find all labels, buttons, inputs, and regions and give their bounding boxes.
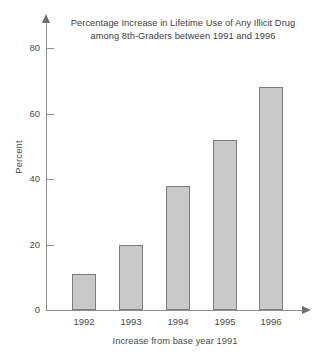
chart-title: Percentage Increase in Lifetime Use of A… <box>52 17 314 42</box>
y-tick-label-0: 0 <box>10 304 40 315</box>
y-tick-label-20: 20 <box>10 239 40 250</box>
x-tick-label-1992: 1992 <box>61 316 107 327</box>
chart-title-line-2: among 8th-Graders between 1991 and 1996 <box>52 30 314 43</box>
x-axis-title: Increase from base year 1991 <box>46 336 304 346</box>
bar-chart-figure: Percentage Increase in Lifetime Use of A… <box>0 0 321 360</box>
bar-1992 <box>72 274 96 310</box>
x-tick-label-1994: 1994 <box>155 316 201 327</box>
x-axis-line <box>46 310 304 311</box>
bar-1993 <box>119 245 143 311</box>
x-axis-arrow-icon <box>302 306 311 314</box>
y-tick-0 <box>47 310 54 311</box>
y-axis-line <box>46 22 47 311</box>
bar-1994 <box>166 186 190 310</box>
y-axis-arrow-icon <box>42 14 50 23</box>
bar-1996 <box>259 87 283 310</box>
y-tick-20 <box>47 245 54 246</box>
x-tick-label-1993: 1993 <box>108 316 154 327</box>
x-tick-label-1996: 1996 <box>248 316 294 327</box>
y-tick-label-80: 80 <box>10 42 40 53</box>
chart-title-line-1: Percentage Increase in Lifetime Use of A… <box>52 17 314 30</box>
bar-1995 <box>213 140 237 310</box>
y-tick-60 <box>47 114 54 115</box>
y-tick-label-60: 60 <box>10 108 40 119</box>
y-tick-80 <box>47 48 54 49</box>
y-tick-40 <box>47 179 54 180</box>
y-axis-title: Percent <box>14 122 24 192</box>
x-tick-label-1995: 1995 <box>202 316 248 327</box>
